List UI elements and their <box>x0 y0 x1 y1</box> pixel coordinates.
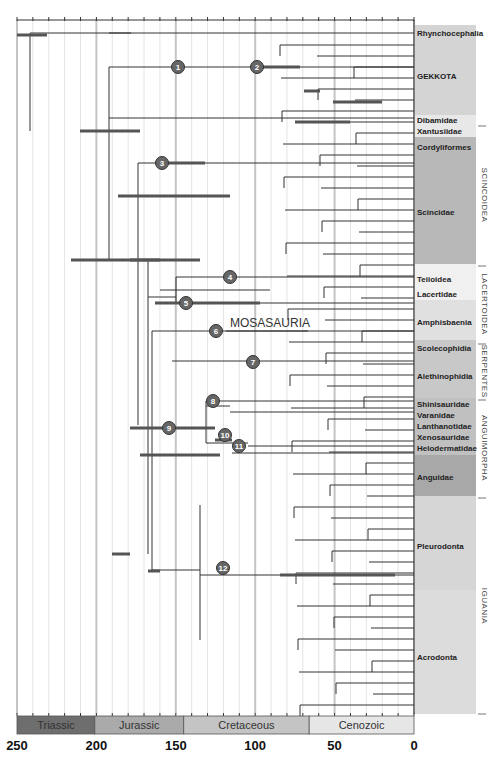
node-marker-8: 8 <box>207 395 220 408</box>
group-label: IGUANIA <box>480 588 489 625</box>
clade-band <box>414 590 476 714</box>
node-marker-7: 7 <box>247 356 260 369</box>
confidence-bars <box>17 35 395 575</box>
node-marker-11: 11 <box>233 440 246 453</box>
tip-label: Teiioidea <box>417 275 452 284</box>
node-number: 9 <box>167 424 172 433</box>
period-label: Jurassic <box>119 719 160 731</box>
group-label: SERPENTES <box>480 345 489 398</box>
node-number: 2 <box>255 63 260 72</box>
geologic-timescale: TriassicJurassicCretaceousCenozoic <box>17 713 414 734</box>
node-marker-1: 1 <box>172 61 185 74</box>
time-axis: 250200150100500 <box>6 738 417 753</box>
period-label: Cretaceous <box>218 719 275 731</box>
tip-label: Rhynchocephalia <box>417 29 484 38</box>
period-label: Cenozoic <box>339 719 385 731</box>
tip-label: Pleurodonta <box>417 542 464 551</box>
group-label: LACERTOIDEA <box>480 273 489 335</box>
phylogeny-figure: 123456789101112 RhynchocephaliaGEKKOTADi… <box>0 0 500 768</box>
node-number: 12 <box>219 564 228 573</box>
axis-tick-label: 0 <box>410 738 417 753</box>
tip-label: Anguidae <box>417 473 454 482</box>
node-marker-4: 4 <box>224 271 237 284</box>
tip-label: Dibamidae <box>417 116 458 125</box>
tip-label: Acrodonta <box>417 653 458 662</box>
axis-tick-label: 100 <box>244 738 266 753</box>
node-marker-10: 10 <box>219 429 232 442</box>
axis-tick-label: 200 <box>86 738 108 753</box>
node-number: 5 <box>184 299 189 308</box>
group-label: ANGUIMORPHA <box>480 415 489 481</box>
axis-tick-label: 50 <box>327 738 341 753</box>
tip-label: Shinisauridae <box>417 400 470 409</box>
node-marker-3: 3 <box>156 157 169 170</box>
tip-label: Alethinophidia <box>417 372 473 381</box>
tip-label: Xenosauridae <box>417 433 470 442</box>
node-number: 10 <box>221 431 230 440</box>
clade-band <box>414 25 476 115</box>
mosasauria-annotation: MOSASAURIA <box>230 316 310 330</box>
tree-branches <box>30 33 414 716</box>
tip-label: GEKKOTA <box>417 72 457 81</box>
tip-label: Helodermatidae <box>417 444 478 453</box>
tip-label: Scolecophidia <box>417 344 472 353</box>
tip-label: Scincidae <box>417 208 455 217</box>
axis-tick-label: 150 <box>165 738 187 753</box>
node-number: 1 <box>176 63 181 72</box>
node-marker-9: 9 <box>163 422 176 435</box>
tip-label: Lanthanotidae <box>417 422 472 431</box>
node-number: 3 <box>160 159 165 168</box>
node-marker-6: 6 <box>210 325 223 338</box>
tip-label: Varanidae <box>417 411 455 420</box>
group-labels: SCINCOIDEALACERTOIDEASERPENTESANGUIMORPH… <box>478 126 489 714</box>
node-number: 4 <box>228 273 233 282</box>
node-number: 7 <box>251 358 256 367</box>
tip-label: Amphisbaenia <box>417 318 472 327</box>
node-marker-12: 12 <box>217 562 230 575</box>
node-number: 11 <box>235 442 244 451</box>
node-marker-2: 2 <box>251 61 264 74</box>
tip-label: Lacertidae <box>417 290 458 299</box>
node-marker-5: 5 <box>180 297 193 310</box>
node-number: 8 <box>211 397 216 406</box>
tip-label: Xantusiidae <box>417 127 462 136</box>
period-label: Triassic <box>37 719 75 731</box>
tip-label: Cordyliformes <box>417 143 472 152</box>
group-label: SCINCOIDEA <box>480 168 489 223</box>
clade-band <box>414 137 476 264</box>
node-number: 6 <box>214 327 219 336</box>
axis-tick-label: 250 <box>6 738 28 753</box>
